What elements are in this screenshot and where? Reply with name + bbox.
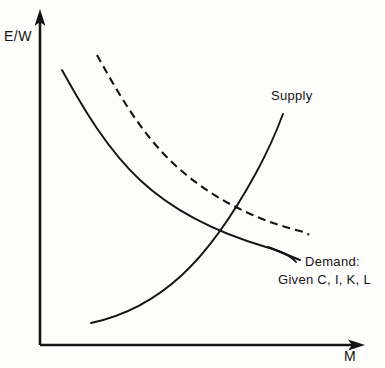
x-axis-label: M — [344, 348, 356, 364]
demand-curve-solid — [62, 70, 296, 262]
supply-curve — [91, 114, 283, 323]
chart-canvas — [0, 0, 385, 368]
x-axis — [40, 340, 365, 351]
demand-curve-given-label: Given C, I, K, L — [278, 272, 371, 287]
demand-curve-dashed — [97, 55, 309, 235]
supply-demand-chart: E/W M Supply Demand: Given C, I, K, L — [0, 0, 385, 368]
y-axis-label: E/W — [4, 28, 32, 44]
demand-label-leader-line — [268, 247, 300, 260]
supply-curve-label: Supply — [271, 88, 313, 103]
y-axis — [35, 9, 46, 345]
demand-curve-label: Demand: — [305, 254, 360, 269]
